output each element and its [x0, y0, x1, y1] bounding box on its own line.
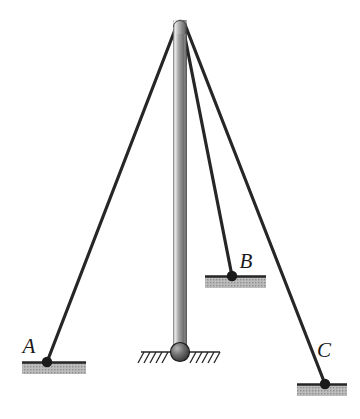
label-a: A	[21, 334, 36, 358]
label-c: C	[317, 338, 332, 362]
anchor-dot-b	[227, 271, 237, 281]
hatch-tick	[138, 352, 144, 363]
hatch-tick	[144, 352, 150, 363]
ball-and-socket-base	[171, 343, 190, 362]
cable-to-a	[47, 22, 178, 362]
hatch-tick	[162, 352, 168, 363]
support-a	[22, 363, 86, 375]
cable-to-b	[182, 22, 232, 276]
label-b: B	[240, 249, 253, 273]
pole-shaft	[174, 20, 187, 354]
engineering-figure: A B C	[0, 0, 360, 419]
hatch-tick	[208, 352, 214, 363]
hatch-tick	[190, 352, 196, 363]
hatch-tick	[150, 352, 156, 363]
vertical-pole	[174, 20, 187, 355]
anchor-dot-a	[42, 357, 52, 367]
hatch-tick	[156, 352, 162, 363]
hatch-tick	[202, 352, 208, 363]
hatch-tick	[196, 352, 202, 363]
support-a-block	[22, 363, 86, 374]
hatch-tick	[214, 352, 220, 363]
cable-to-c	[184, 22, 325, 384]
pole-cap	[174, 20, 187, 35]
figure-canvas: A B C	[0, 0, 360, 419]
anchor-dot-c	[320, 379, 330, 389]
